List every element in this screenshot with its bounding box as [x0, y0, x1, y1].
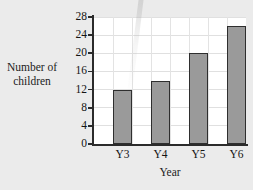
- bar-chart-figure: Number of children 0481216202428 Y3Y4Y5Y…: [0, 0, 252, 190]
- y-axis-title-line-1: Number of: [2, 60, 62, 74]
- x-axis-tick-label-y4: Y4: [141, 148, 181, 161]
- gridline-vertical: [208, 17, 209, 144]
- y-axis-tick-mark: [88, 143, 93, 145]
- x-axis-title: Year: [130, 166, 210, 179]
- y-axis-tick-label: 12: [65, 84, 87, 96]
- gridline-vertical: [170, 17, 171, 144]
- y-axis-tick-labels: 0481216202428: [62, 0, 87, 190]
- y-axis-tick-mark: [88, 107, 93, 109]
- bar-y4: [151, 81, 170, 145]
- bar-y3: [113, 90, 132, 144]
- y-axis-tick-mark: [88, 16, 93, 18]
- y-axis-tick-label: 0: [65, 138, 87, 150]
- gridline-vertical: [132, 17, 133, 144]
- y-axis-title: Number of children: [2, 60, 62, 88]
- x-axis-tick-label-y5: Y5: [179, 148, 219, 161]
- y-axis-tick-label: 24: [65, 29, 87, 41]
- y-axis-tick-label: 16: [65, 65, 87, 77]
- y-axis-tick-mark: [88, 52, 93, 54]
- x-axis-tick-label-y3: Y3: [103, 148, 143, 161]
- y-axis-title-line-2: children: [2, 74, 62, 88]
- y-axis-tick-mark: [88, 89, 93, 91]
- x-axis-line: [92, 144, 248, 146]
- bar-y6: [227, 26, 246, 144]
- y-axis-tick-mark: [88, 34, 93, 36]
- y-axis-tick-label: 20: [65, 47, 87, 59]
- y-axis-tick-mark: [88, 71, 93, 73]
- y-axis-tick-label: 8: [65, 102, 87, 114]
- y-axis-tick-mark: [88, 125, 93, 127]
- plot-area: [94, 17, 246, 144]
- bar-y5: [189, 53, 208, 144]
- x-axis-tick-label-y6: Y6: [217, 148, 253, 161]
- y-axis-tick-label: 28: [65, 11, 87, 23]
- y-axis-tick-label: 4: [65, 120, 87, 132]
